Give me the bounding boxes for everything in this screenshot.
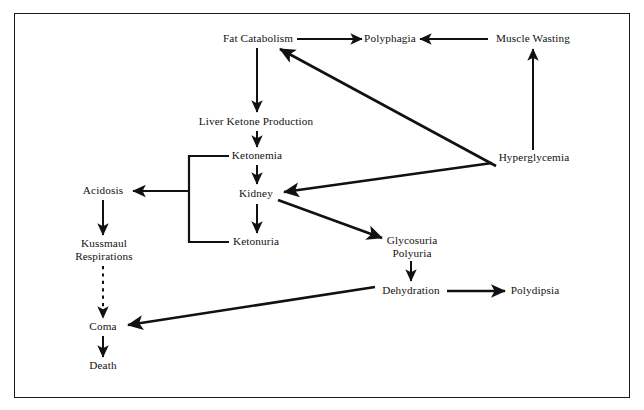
node-label: Polyphagia	[364, 32, 416, 44]
diagram-edges-layer	[0, 0, 644, 410]
node-dehydration[interactable]: Dehydration	[382, 284, 440, 297]
node-label: Death	[89, 359, 116, 371]
edge-bracket-ketonemia-ketonuria	[189, 156, 229, 242]
node-label: Kussmaul	[81, 237, 127, 249]
node-label: Ketonemia	[232, 149, 282, 161]
node-fat-catabolism[interactable]: Fat Catabolism	[223, 32, 293, 45]
node-ketonemia[interactable]: Ketonemia	[232, 149, 282, 162]
edge-hyperglycemia-to-kidney	[284, 163, 492, 192]
node-label: Hyperglycemia	[499, 151, 570, 163]
node-glycosuria-polyuria[interactable]: Glycosuria Polyuria	[387, 234, 438, 260]
node-label-line-2: Respirations	[75, 250, 133, 263]
edge-dehydration-to-coma	[128, 287, 375, 325]
node-kussmaul-respirations[interactable]: Kussmaul Respirations	[75, 237, 133, 263]
node-label: Glycosuria	[387, 234, 438, 246]
node-label: Polydipsia	[511, 284, 560, 296]
node-muscle-wasting[interactable]: Muscle Wasting	[496, 32, 570, 45]
node-coma[interactable]: Coma	[89, 320, 116, 333]
node-label: Kidney	[239, 187, 273, 199]
node-label: Dehydration	[382, 284, 440, 296]
node-label: Coma	[89, 320, 116, 332]
edge-hyperglycemia-to-fat-catabolism	[280, 49, 496, 166]
node-polydipsia[interactable]: Polydipsia	[511, 284, 560, 297]
node-label: Muscle Wasting	[496, 32, 570, 44]
node-hyperglycemia[interactable]: Hyperglycemia	[499, 151, 570, 164]
node-death[interactable]: Death	[89, 359, 116, 372]
edge-kidney-to-glycosuria-polyuria	[278, 200, 382, 238]
diagram-canvas: Fat Catabolism Polyphagia Muscle Wasting…	[0, 0, 644, 410]
node-liver-ketone-production[interactable]: Liver Ketone Production	[199, 115, 314, 128]
node-ketonuria[interactable]: Ketonuria	[233, 235, 279, 248]
node-label: Fat Catabolism	[223, 32, 293, 44]
node-polyphagia[interactable]: Polyphagia	[364, 32, 416, 45]
node-label-line-2: Polyuria	[387, 247, 438, 260]
node-label: Ketonuria	[233, 235, 279, 247]
node-label: Acidosis	[83, 184, 123, 196]
node-acidosis[interactable]: Acidosis	[83, 184, 123, 197]
node-kidney[interactable]: Kidney	[239, 187, 273, 200]
node-label: Liver Ketone Production	[199, 115, 314, 127]
